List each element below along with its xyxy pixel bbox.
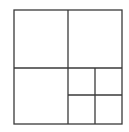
diagram-canvas	[0, 0, 129, 132]
cell-top-right	[68, 10, 122, 68]
cell-bottom-right-top-left	[68, 68, 95, 95]
cell-top-left	[14, 10, 68, 68]
cell-bottom-right-bottom-left	[68, 95, 95, 124]
cell-bottom-left	[14, 68, 68, 124]
quadtree-diagram	[0, 0, 129, 132]
cell-bottom-right-bottom-right	[95, 95, 122, 124]
cell-bottom-right-top-right	[95, 68, 122, 95]
